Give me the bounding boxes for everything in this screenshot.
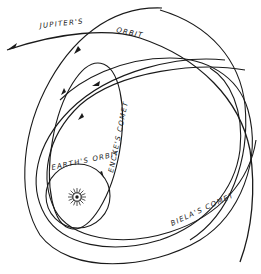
jupiter-orbit-label-2: ORBIT: [116, 26, 145, 40]
biela-comet-orbit: [25, 8, 256, 264]
sun-icon: [68, 188, 86, 206]
biela-orbit-arrow-icon-4: [61, 88, 66, 95]
biela-orbit-arrow-icon-3: [78, 113, 84, 120]
biela-comet-label: BIELA'S COMET: [169, 191, 235, 228]
biela-orbit-arrow-icon-1: [74, 46, 81, 54]
jupiter-orbit-label: JUPITER'S: [37, 17, 84, 30]
biela-orbit-arrow-icon-2: [92, 81, 100, 86]
comet-orbits-diagram: JUPITER'S ORBIT EARTH'S ORBIT ENCKE'S CO…: [0, 0, 261, 274]
encke-comet-label: ENCKE'S COMET: [107, 100, 130, 173]
